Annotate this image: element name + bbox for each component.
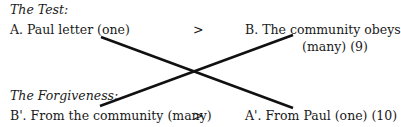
line-b-prime-to-b — [100, 35, 293, 106]
line-a-to-a-prime — [101, 37, 293, 108]
